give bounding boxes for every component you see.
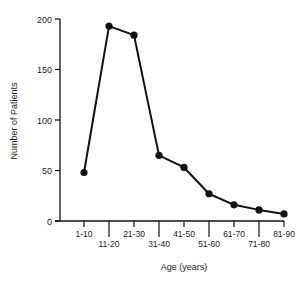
x-tick-label: 71-80 (248, 239, 270, 249)
data-point-marker (205, 190, 212, 197)
y-axis: 050100150200 (37, 15, 60, 227)
x-tick-label: 51-60 (198, 239, 220, 249)
x-axis-label: Age (years) (161, 262, 208, 272)
y-tick-label: 0 (47, 217, 52, 227)
x-axis: 1-1011-2021-3031-4041-5051-6061-7071-808… (55, 221, 295, 249)
x-tick-label: 11-20 (98, 239, 119, 249)
data-point-marker (80, 169, 87, 176)
x-tick-label: 61-70 (223, 229, 245, 239)
x-tick-label: 81-90 (273, 229, 295, 239)
series-line (84, 26, 284, 214)
x-tick-label: 41-50 (173, 229, 195, 239)
y-tick-label: 100 (37, 116, 52, 126)
y-tick-label: 50 (42, 166, 52, 176)
data-point-marker (280, 210, 287, 217)
data-point-marker (130, 32, 137, 39)
x-tick-label: 31-40 (148, 239, 170, 249)
data-point-marker (155, 152, 162, 159)
data-point-marker (255, 206, 262, 213)
data-point-marker (230, 201, 237, 208)
x-tick-label: 21-30 (123, 229, 145, 239)
x-tick-label: 1-10 (75, 229, 92, 239)
data-point-marker (105, 22, 112, 29)
line-chart: 050100150200 1-1011-2021-3031-4041-5051-… (0, 0, 308, 286)
data-point-marker (180, 164, 187, 171)
y-tick-label: 200 (37, 15, 52, 25)
y-tick-label: 150 (37, 65, 52, 75)
y-axis-label: Number of Patients (9, 82, 19, 160)
data-series (80, 22, 287, 217)
